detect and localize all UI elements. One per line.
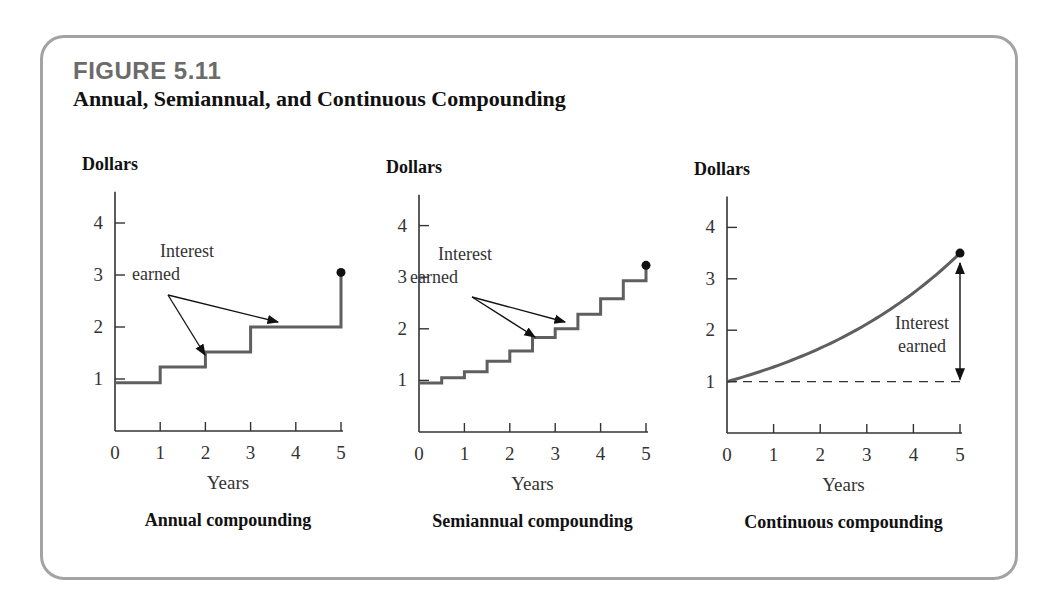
- x-tick-label: 1: [460, 443, 470, 464]
- x-tick-label: 3: [246, 442, 256, 463]
- charts-canvas: Dollars1234012345YearsAnnual compounding…: [0, 0, 1047, 608]
- x-tick-label: 2: [201, 442, 211, 463]
- y-tick-label: 3: [398, 266, 408, 287]
- x-tick-label: 0: [110, 442, 120, 463]
- y-tick-label: 4: [706, 216, 716, 237]
- y-tick-label: 1: [706, 371, 716, 392]
- x-tick-label: 3: [550, 443, 560, 464]
- annotation-interest-earned: Interestearned: [410, 244, 492, 287]
- continuous-compounding-chart: Dollars1234012345YearsContinuous compoun…: [694, 159, 965, 532]
- y-tick-label: 2: [94, 316, 104, 337]
- y-tick-label: 3: [94, 264, 104, 285]
- y-tick-label: 4: [94, 212, 104, 233]
- y-tick-label: 1: [94, 368, 104, 389]
- x-axis-label: Years: [511, 473, 553, 494]
- x-tick-label: 2: [505, 443, 515, 464]
- x-tick-label: 5: [955, 444, 965, 465]
- x-tick-label: 5: [336, 442, 346, 463]
- annotation-arrow: [472, 297, 565, 322]
- annotation-arrow: [168, 295, 205, 355]
- end-point-marker: [642, 261, 651, 270]
- x-tick-label: 2: [815, 444, 825, 465]
- y-tick-label: 4: [398, 215, 408, 236]
- x-axis-label: Years: [822, 474, 864, 495]
- y-tick-label: 1: [398, 369, 408, 390]
- y-tick-label: 3: [706, 268, 716, 289]
- y-axis-label: Dollars: [386, 157, 442, 177]
- chart-caption: Semiannual compounding: [432, 511, 633, 531]
- end-point-marker: [337, 268, 346, 277]
- x-tick-label: 1: [155, 442, 165, 463]
- annotation-arrow: [472, 297, 535, 337]
- y-axis-label: Dollars: [82, 154, 138, 174]
- x-tick-label: 4: [291, 442, 301, 463]
- end-point-marker: [956, 249, 965, 258]
- chart-caption: Continuous compounding: [744, 512, 943, 532]
- y-tick-label: 2: [398, 318, 408, 339]
- x-tick-label: 0: [722, 444, 732, 465]
- x-axis-label: Years: [207, 472, 249, 493]
- annual-compounding-chart: Dollars1234012345YearsAnnual compounding…: [82, 154, 346, 530]
- x-tick-label: 1: [769, 444, 779, 465]
- annotation-arrow: [168, 295, 278, 322]
- x-tick-label: 3: [862, 444, 872, 465]
- annotation-interest-earned: Interestearned: [895, 313, 949, 356]
- y-tick-label: 2: [706, 319, 716, 340]
- data-series: [115, 272, 341, 382]
- x-tick-label: 4: [596, 443, 606, 464]
- semiannual-compounding-chart: Dollars1234012345YearsSemiannual compoun…: [386, 157, 651, 531]
- annotation-interest-earned: Interestearned: [132, 241, 214, 284]
- x-tick-label: 0: [414, 443, 424, 464]
- y-axis-label: Dollars: [694, 159, 750, 179]
- x-tick-label: 5: [641, 443, 651, 464]
- chart-caption: Annual compounding: [145, 510, 312, 530]
- x-tick-label: 4: [909, 444, 919, 465]
